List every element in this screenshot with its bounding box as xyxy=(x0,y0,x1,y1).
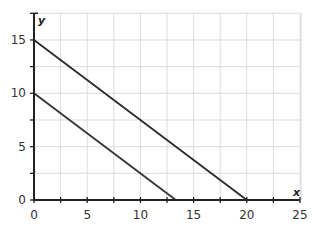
x-tick-label: 5 xyxy=(83,208,91,222)
y-tick-label: 0 xyxy=(18,193,26,207)
x-axis-label: x xyxy=(292,186,301,199)
x-tick-label: 15 xyxy=(186,208,201,222)
x-tick-label: 10 xyxy=(133,208,148,222)
x-tick-label: 0 xyxy=(30,208,38,222)
grid xyxy=(34,13,301,200)
x-tick-label: 25 xyxy=(292,208,307,222)
y-tick-label: 10 xyxy=(11,86,26,100)
ticks: 0510152025051015 xyxy=(11,13,308,222)
y-tick-label: 15 xyxy=(11,33,26,47)
y-axis-label: y xyxy=(38,14,46,27)
y-tick-label: 5 xyxy=(18,140,26,154)
x-tick-label: 20 xyxy=(239,208,254,222)
chart: 0510152025051015 x y xyxy=(0,0,322,232)
